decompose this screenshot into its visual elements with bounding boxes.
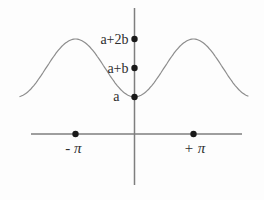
point-a-plus-b-dot	[131, 65, 137, 71]
y-label-a-plus-b: a+b	[107, 61, 128, 76]
x-label-neg-pi: - π	[65, 140, 82, 156]
point-neg-pi-dot	[72, 131, 78, 137]
point-pos-pi-dot	[190, 131, 196, 137]
function-plot: a+2b a+b a - π + π	[0, 0, 264, 200]
y-label-a: a	[113, 89, 120, 104]
point-a-plus-2b-dot	[131, 36, 137, 42]
x-label-pos-pi: + π	[184, 140, 206, 156]
point-a-dot	[131, 94, 137, 100]
y-label-a-plus-2b: a+2b	[100, 32, 128, 47]
